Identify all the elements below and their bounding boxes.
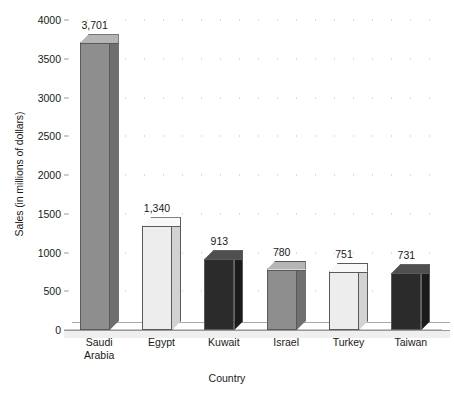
x-category-label: Taiwan xyxy=(394,336,427,349)
tick-mark xyxy=(64,175,68,176)
x-category-label: Egypt xyxy=(148,336,175,349)
x-category-label: Israel xyxy=(273,336,299,349)
bar-side-face xyxy=(172,226,181,330)
bar-chart: Sales (in millions of dollars) Country 0… xyxy=(0,0,454,401)
bar-value-label: 780 xyxy=(273,246,291,258)
bar[interactable]: 731 xyxy=(391,273,421,330)
bar-top-face xyxy=(329,263,368,272)
bar[interactable]: 1,340 xyxy=(142,226,172,330)
bar-front-face xyxy=(391,273,421,330)
tick-mark xyxy=(64,291,68,292)
x-axis-title: Country xyxy=(0,372,454,384)
y-tick-label: 1500 xyxy=(19,208,61,220)
bar[interactable]: 913 xyxy=(204,259,234,330)
bar-top-face xyxy=(267,261,306,270)
y-tick-label: 3000 xyxy=(19,92,61,104)
gridline xyxy=(68,175,442,176)
gridline xyxy=(68,136,442,137)
bar-side-face xyxy=(234,259,243,330)
bar[interactable]: 780 xyxy=(267,270,297,330)
gridline xyxy=(68,213,442,214)
tick-mark xyxy=(64,213,68,214)
gridline xyxy=(68,291,442,292)
gridline xyxy=(68,252,442,253)
bar-value-label: 751 xyxy=(335,248,353,260)
x-category-label: Turkey xyxy=(333,336,365,349)
gridline xyxy=(68,20,442,21)
bar[interactable]: 751 xyxy=(329,272,359,330)
y-tick-label: 4000 xyxy=(19,14,61,26)
bar-front-face xyxy=(204,259,234,330)
bar-top-face xyxy=(80,34,119,43)
bar-side-face xyxy=(297,270,306,330)
bar-side-face xyxy=(359,272,368,330)
bar-front-face xyxy=(329,272,359,330)
bar-value-label: 1,340 xyxy=(144,202,170,214)
bar[interactable]: 3,701 xyxy=(80,43,110,330)
tick-mark xyxy=(64,20,68,21)
bar-side-face xyxy=(110,43,119,330)
bar-top-face xyxy=(391,264,430,273)
tick-mark xyxy=(64,58,68,59)
floor-face xyxy=(64,330,450,338)
bar-front-face xyxy=(142,226,172,330)
tick-mark xyxy=(64,97,68,98)
y-tick-label: 2500 xyxy=(19,130,61,142)
bar-value-label: 3,701 xyxy=(82,19,108,31)
gridline xyxy=(68,97,442,98)
y-tick-label: 3500 xyxy=(19,53,61,65)
y-tick-label: 500 xyxy=(19,285,61,297)
tick-mark xyxy=(64,136,68,137)
bar-side-face xyxy=(421,273,430,330)
bar-top-face xyxy=(142,217,181,226)
plot-area: 05001000150020002500300035004000 3,7011,… xyxy=(68,20,442,330)
y-tick-label: 0 xyxy=(19,324,61,336)
floor-front-edge xyxy=(64,330,450,331)
bar-value-label: 731 xyxy=(398,249,416,261)
tick-mark xyxy=(64,252,68,253)
x-category-label: Kuwait xyxy=(208,336,240,349)
bar-front-face xyxy=(80,43,110,330)
y-tick-label: 2000 xyxy=(19,169,61,181)
y-tick-label: 1000 xyxy=(19,247,61,259)
gridline xyxy=(68,58,442,59)
bar-value-label: 913 xyxy=(211,235,229,247)
x-category-label: Saudi Arabia xyxy=(84,336,114,361)
bar-front-face xyxy=(267,270,297,330)
